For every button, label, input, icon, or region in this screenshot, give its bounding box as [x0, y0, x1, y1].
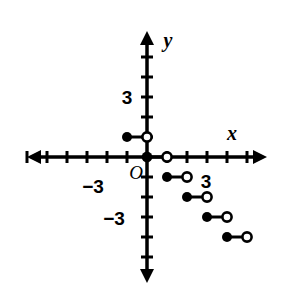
open-endpoint-dot	[142, 132, 151, 141]
step-segment-y-1	[162, 172, 192, 182]
origin-label: O	[129, 162, 143, 183]
step-segment-y1	[122, 132, 152, 142]
step-segment-y0	[142, 152, 172, 163]
closed-endpoint-dot	[162, 172, 172, 182]
step-segment-y-2	[182, 192, 212, 202]
step-segment-y-4	[222, 232, 252, 242]
graph-figure: x −3 3 y 3 −3	[0, 0, 281, 291]
open-endpoint-dot	[242, 232, 251, 241]
closed-endpoint-dot	[142, 152, 153, 163]
step-segment-y-3	[202, 212, 232, 222]
closed-endpoint-dot	[202, 212, 212, 222]
open-endpoint-dot	[222, 212, 231, 221]
x-axis-label: x	[226, 122, 237, 144]
open-endpoint-dot	[182, 172, 191, 181]
y-axis-top-arrowhead	[140, 31, 154, 45]
closed-endpoint-dot	[122, 132, 132, 142]
y-tick-label-3: 3	[122, 87, 133, 108]
closed-endpoint-dot	[222, 232, 232, 242]
step-function-series	[122, 132, 252, 242]
y-axis-label: y	[162, 29, 173, 52]
x-axis-left-arrowhead	[27, 150, 41, 164]
open-endpoint-dot	[202, 192, 211, 201]
coordinate-plane-svg: x −3 3 y 3 −3	[0, 0, 281, 291]
y-tick-label-negative-3: −3	[103, 208, 125, 229]
x-axis-right-arrowhead	[253, 150, 267, 164]
open-endpoint-dot	[162, 152, 171, 161]
closed-endpoint-dot	[182, 192, 192, 202]
x-tick-label-negative-3: −3	[82, 176, 104, 197]
x-tick-label-3: 3	[201, 171, 212, 192]
y-axis-bottom-arrowhead	[140, 269, 154, 283]
